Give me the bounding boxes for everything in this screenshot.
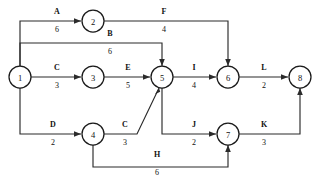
node-8-label: 8 xyxy=(298,73,302,83)
edge-label-L-name: L xyxy=(261,63,266,72)
edge-path-C2 xyxy=(104,88,159,134)
edge-paths xyxy=(20,18,303,167)
edge-path-B xyxy=(20,43,162,66)
edge-arrow-I xyxy=(209,74,216,80)
node-6[interactable]: 6 xyxy=(217,66,239,88)
node-8[interactable]: 8 xyxy=(289,66,311,88)
node-4[interactable]: 4 xyxy=(82,123,104,145)
node-2-label: 2 xyxy=(91,17,95,27)
network-diagram: A 6 B 6 C 3 D 2 E 5 C 3 F 4 I 4 J 2 H 6 … xyxy=(0,0,319,189)
network-diagram-canvas: A 6 B 6 C 3 D 2 E 5 C 3 F 4 I 4 J 2 H 6 … xyxy=(0,0,319,189)
node-3[interactable]: 3 xyxy=(82,66,104,88)
edge-arrow-J xyxy=(209,131,216,137)
edge-label-B-name: B xyxy=(107,29,113,38)
edge-label-E-name: E xyxy=(125,63,130,72)
edge-arrow-B xyxy=(159,59,165,66)
edge-arrow-A xyxy=(74,18,81,24)
edge-label-D-name: D xyxy=(50,120,56,129)
edge-label-B-weight: 6 xyxy=(108,47,112,56)
node-7[interactable]: 7 xyxy=(217,123,239,145)
node-7-label: 7 xyxy=(226,130,230,140)
edge-label-E-weight: 5 xyxy=(126,81,130,90)
node-3-label: 3 xyxy=(91,73,95,83)
node-1-label: 1 xyxy=(18,73,22,83)
edge-label-F-name: F xyxy=(162,7,167,16)
edge-arrow-C1 xyxy=(74,74,81,80)
edge-path-H xyxy=(93,145,228,167)
edge-path-K xyxy=(239,88,300,134)
edge-label-I-name: I xyxy=(192,63,195,72)
node-5[interactable]: 5 xyxy=(151,66,173,88)
edge-label-F-weight: 4 xyxy=(162,25,166,34)
edge-arrow-D xyxy=(74,131,81,137)
edge-label-I-weight: 4 xyxy=(192,81,196,90)
edge-label-J-name: J xyxy=(192,120,196,129)
edge-arrow-C2 xyxy=(155,88,160,94)
edge-label-D-weight: 2 xyxy=(51,138,55,147)
edge-arrow-E xyxy=(143,74,150,80)
edge-label-C1-weight: 3 xyxy=(55,81,59,90)
edge-label-K-weight: 3 xyxy=(262,138,266,147)
edge-label-L-weight: 2 xyxy=(262,81,266,90)
node-5-label: 5 xyxy=(160,73,164,83)
edge-label-H-weight: 6 xyxy=(155,168,159,177)
edge-arrow-L xyxy=(281,74,288,80)
node-6-label: 6 xyxy=(226,73,230,83)
edge-label-K-name: K xyxy=(261,120,268,129)
edge-label-A-weight: 6 xyxy=(55,25,59,34)
edge-label-C2-weight: 3 xyxy=(123,138,127,147)
edge-arrow-H xyxy=(225,145,231,152)
edge-arrow-K xyxy=(297,88,303,95)
edge-label-C2-name: C xyxy=(122,120,128,129)
edge-arrow-F xyxy=(225,59,231,66)
edge-label-J-weight: 2 xyxy=(192,138,196,147)
edge-path-J xyxy=(162,88,216,134)
edge-label-C1-name: C xyxy=(54,63,60,72)
node-2[interactable]: 2 xyxy=(82,10,104,32)
edge-label-A-name: A xyxy=(54,7,60,16)
edge-label-H-name: H xyxy=(154,150,161,159)
node-1[interactable]: 1 xyxy=(9,66,31,88)
